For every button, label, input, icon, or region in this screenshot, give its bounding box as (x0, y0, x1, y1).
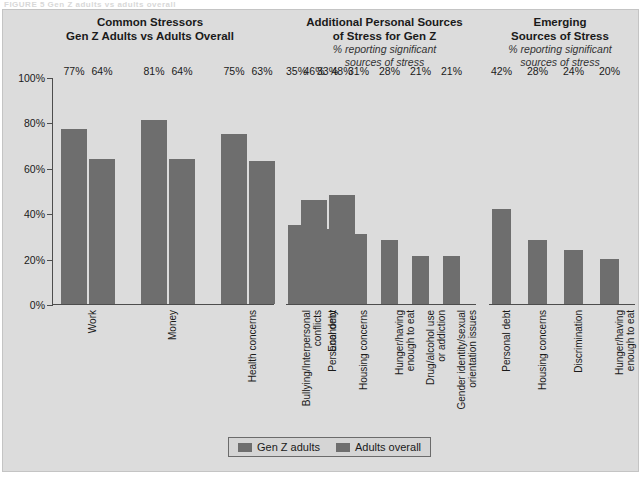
legend-swatch-icon (238, 443, 252, 452)
category-label-line: Drug/alcohol use (425, 310, 436, 385)
category-label: Hunger/havingenough to eat (614, 310, 636, 375)
bar-item: 21% (443, 78, 460, 304)
bar-value-label: 21% (410, 65, 431, 77)
bar-value-label: 64% (91, 65, 112, 77)
category-label-line: Money (167, 310, 178, 340)
bar (319, 229, 336, 304)
bar-group: 81%64% (141, 78, 195, 304)
bar (288, 225, 305, 304)
bar-item: 63% (249, 78, 275, 304)
bar-item: 28% (381, 78, 398, 304)
bar-item: 24% (564, 78, 583, 304)
category-label-line: conflicts (312, 310, 323, 406)
bar (61, 129, 87, 304)
bar-group: 21% (443, 78, 460, 304)
bar (600, 259, 619, 304)
category-label-line: Health concerns (247, 310, 258, 382)
category-label: Housing concerns (358, 310, 369, 390)
chart-title-line1: Common Stressors (97, 16, 203, 28)
bar (169, 159, 195, 304)
bar-item: 35% (288, 78, 305, 304)
category-labels-emerging-sources: Personal debtHousing concernsDiscriminat… (489, 310, 635, 425)
category-labels-additional-personal-sources: Bullying/InterpersonalconflictsPersonal … (286, 310, 476, 425)
bar-item: 81% (141, 78, 167, 304)
category-label-line: Housing concerns (358, 310, 369, 390)
category-label: Personal debt (501, 310, 512, 372)
bar-group: 28% (381, 78, 398, 304)
bar-group: 42% (492, 78, 511, 304)
category-label: Drug/alcohol useor addiction (425, 310, 447, 385)
chart-title-line2: of Stress for Gen Z (333, 30, 437, 42)
bar-item: 77% (61, 78, 87, 304)
chart-title-emerging-sources: Emerging Sources of Stress (487, 16, 633, 43)
bar-group: 33% (319, 78, 336, 304)
bar-item: 64% (89, 78, 115, 304)
plot-common-stressors: 0%20%40%60%80%100%77%64%81%64%75%63%46%4… (52, 78, 274, 305)
bar-group: 20% (600, 78, 619, 304)
bar-value-label: 77% (63, 65, 84, 77)
category-label: Discrimination (573, 310, 584, 373)
bar-value-label: 75% (223, 65, 244, 77)
bar-item: 42% (492, 78, 511, 304)
category-label: Money (167, 310, 178, 340)
bar (249, 161, 275, 304)
bar-value-label: 35% (286, 65, 307, 77)
legend-item-gen-z-adults: Gen Z adults (238, 441, 320, 453)
bar (412, 256, 429, 304)
chart-subtitle-line1: % reporting significant (508, 43, 611, 55)
bar-group: 21% (412, 78, 429, 304)
category-label-line: Personal debt (327, 310, 338, 372)
bar (141, 120, 167, 304)
y-axis-tick-label: 20% (0, 255, 45, 265)
bar-item: 75% (221, 78, 247, 304)
category-label: Personal debt (327, 310, 338, 372)
category-label-line: orientation issues (467, 310, 478, 410)
bar-value-label: 28% (527, 65, 548, 77)
figure-caption: FIGURE 5 Gen Z adults vs adults overall (0, 0, 641, 9)
y-axis-tick-label: 60% (0, 164, 45, 174)
bar (564, 250, 583, 304)
legend-item-adults-overall: Adults overall (336, 441, 421, 453)
bar (492, 209, 511, 304)
bar-group: 24% (564, 78, 583, 304)
bar (381, 240, 398, 304)
category-labels-common-stressors: WorkMoneyHealth concernsEconomy (52, 310, 274, 425)
category-label-line: Personal debt (501, 310, 512, 372)
chart-title-line2: Sources of Stress (511, 30, 609, 42)
category-label-line: Hunger/having (614, 310, 625, 375)
category-label: Hunger/havingenough to eat (394, 310, 416, 375)
chart-title-line1: Additional Personal Sources (306, 16, 463, 28)
bar-value-label: 24% (563, 65, 584, 77)
bar-group: 28% (528, 78, 547, 304)
chart-subtitle-line1: % reporting significant (333, 43, 436, 55)
chart-title-line2: Gen Z Adults vs Adults Overall (66, 30, 234, 42)
bar (221, 134, 247, 304)
category-label: Gender identity/sexualorientation issues (456, 310, 478, 410)
bar-item: 28% (528, 78, 547, 304)
y-axis-tick (47, 305, 53, 306)
figure-root: FIGURE 5 Gen Z adults vs adults overall … (0, 0, 641, 480)
x-axis-line (286, 304, 476, 305)
legend-label: Adults overall (355, 441, 421, 453)
category-label-line: or addiction (436, 310, 447, 385)
bar-group: 77%64% (61, 78, 115, 304)
bar-value-label: 42% (491, 65, 512, 77)
bar-value-label: 63% (251, 65, 272, 77)
category-label-line: Work (87, 310, 98, 333)
plot-additional-personal-sources: 35%33%31%28%21%21% (286, 78, 476, 305)
legend-label: Gen Z adults (257, 441, 320, 453)
bar-group: 75%63% (221, 78, 275, 304)
category-label-line: Hunger/having (394, 310, 405, 375)
bar-group: 31% (350, 78, 367, 304)
y-axis-tick-label: 40% (0, 209, 45, 219)
bar (350, 234, 367, 304)
category-label-line: Discrimination (573, 310, 584, 373)
category-label-line: Gender identity/sexual (456, 310, 467, 410)
bar (89, 159, 115, 304)
bar (443, 256, 460, 304)
y-axis-tick-label: 100% (0, 73, 45, 83)
category-label: Work (87, 310, 98, 333)
category-label-line: Housing concerns (537, 310, 548, 390)
bar-item: 21% (412, 78, 429, 304)
x-axis-line (52, 304, 274, 305)
